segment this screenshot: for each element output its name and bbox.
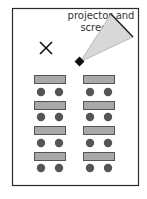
chair xyxy=(55,113,63,121)
chair xyxy=(37,164,45,172)
chair xyxy=(55,88,63,96)
table xyxy=(84,76,115,84)
table xyxy=(84,153,115,161)
chair xyxy=(37,139,45,147)
label-line-1: projector and xyxy=(68,10,135,21)
chair xyxy=(55,139,63,147)
chair xyxy=(37,113,45,121)
table xyxy=(35,127,66,135)
chair xyxy=(104,113,112,121)
table xyxy=(35,76,66,84)
table xyxy=(84,127,115,135)
chair xyxy=(55,164,63,172)
table xyxy=(84,102,115,110)
chair xyxy=(104,139,112,147)
chair xyxy=(86,113,94,121)
table xyxy=(35,102,66,110)
chair xyxy=(86,164,94,172)
chair xyxy=(37,88,45,96)
table xyxy=(35,153,66,161)
chair xyxy=(86,139,94,147)
chair xyxy=(104,88,112,96)
chair xyxy=(104,164,112,172)
chair xyxy=(86,88,94,96)
classroom-layout-diagram: projector and screen xyxy=(0,0,147,199)
